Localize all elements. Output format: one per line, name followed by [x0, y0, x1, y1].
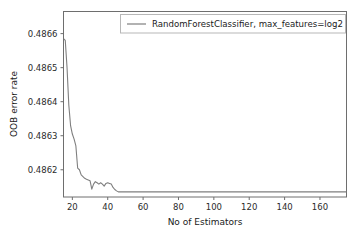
- x-tick-label: 80: [173, 202, 184, 212]
- y-tick-label: 0.4862: [28, 165, 58, 175]
- legend-label-randomforest-log2: RandomForestClassifier, max_features=log…: [152, 19, 343, 29]
- y-tick-label: 0.4864: [28, 97, 58, 107]
- y-tick-label: 0.4866: [28, 29, 58, 39]
- x-tick-label: 120: [241, 202, 257, 212]
- y-tick-label: 0.4865: [28, 63, 58, 73]
- x-tick-label: 20: [67, 202, 78, 212]
- chart-legend: RandomForestClassifier, max_features=log…: [121, 15, 346, 34]
- x-tick-label: 100: [206, 202, 222, 212]
- y-tick-label: 0.4863: [28, 131, 58, 141]
- oob-error-rate-line-chart: 20406080100120140160 0.48620.48630.48640…: [0, 0, 360, 238]
- x-tick-label: 60: [138, 202, 149, 212]
- y-axis-title: OOB error rate: [9, 70, 19, 137]
- x-tick-label: 140: [276, 202, 292, 212]
- chart-figure: 20406080100120140160 0.48620.48630.48640…: [0, 0, 360, 238]
- x-tick-label: 160: [312, 202, 328, 212]
- x-tick-label: 40: [102, 202, 113, 212]
- x-axis-title: No of Estimators: [168, 217, 243, 227]
